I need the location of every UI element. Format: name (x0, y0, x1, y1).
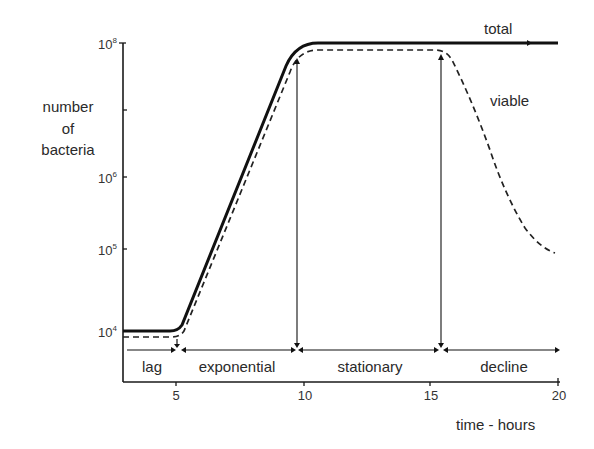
growth-curve-chart: 108 106 105 104 5 10 15 20 number of bac… (0, 0, 594, 449)
phase-labels: lag exponential stationary decline (142, 358, 528, 375)
svg-text:of: of (62, 120, 75, 137)
x-tick-label-5: 5 (172, 388, 179, 403)
viable-series-label: viable (490, 92, 529, 109)
svg-text:bacteria: bacteria (41, 141, 95, 158)
x-tick-label-20: 20 (552, 388, 566, 403)
x-axis-label: time - hours (456, 416, 535, 433)
phase-label-exponential: exponential (199, 358, 276, 375)
phase-label-decline: decline (480, 358, 528, 375)
total-series-label: total (484, 20, 512, 37)
x-tick-labels: 5 10 15 20 (172, 388, 566, 403)
phase-boundary-arrows (174, 54, 444, 348)
x-tick-label-15: 15 (424, 388, 438, 403)
y-tick-labels: 108 106 105 104 (98, 36, 117, 340)
phase-arrows (127, 347, 560, 353)
y-tick-label-1e8: 108 (98, 36, 117, 52)
total-series-line (123, 43, 558, 331)
phase-label-stationary: stationary (337, 358, 403, 375)
y-axis-label: number of bacteria (41, 98, 95, 158)
phase-label-lag: lag (142, 358, 162, 375)
svg-text:number: number (43, 98, 94, 115)
x-tick-label-10: 10 (298, 388, 312, 403)
total-arrow-marker (527, 40, 532, 46)
y-tick-label-1e6: 106 (98, 170, 117, 186)
y-tick-label-1e5: 105 (98, 242, 117, 258)
y-tick-label-1e4: 104 (98, 324, 117, 340)
